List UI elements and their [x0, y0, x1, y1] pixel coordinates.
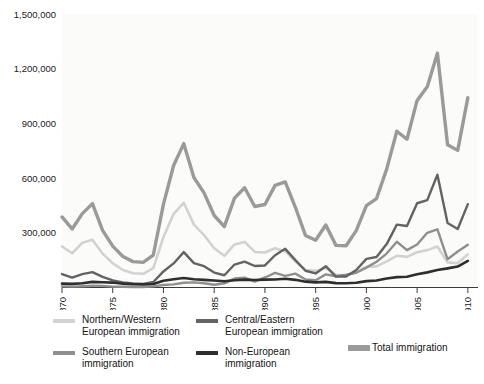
y-axis-tick-labels: 1,500,0001,200,000900,000600,000300,000	[14, 9, 56, 239]
legend-label-northern-western: Northern/Western European immigration	[82, 314, 180, 337]
chart-plot-area: 1,500,0001,200,000900,000600,000300,000 …	[0, 0, 484, 310]
y-tick-label: 1,200,000	[14, 63, 56, 74]
legend-label-southern: Southern European immigration	[82, 346, 169, 369]
legend-item-northern-western: Northern/Western European immigration	[53, 314, 198, 337]
legend-item-total: Total immigration	[348, 342, 484, 354]
y-tick-label: 600,000	[22, 173, 56, 184]
immigration-line-chart: 1,500,0001,200,000900,000600,000300,000 …	[0, 0, 484, 384]
legend-swatch-northern-western-icon	[53, 319, 75, 323]
legend-swatch-non-european-icon	[196, 351, 218, 355]
legend-item-southern: Southern European immigration	[53, 346, 198, 369]
y-tick-label: 1,500,000	[14, 9, 56, 20]
legend-label-non-european: Non-European immigration	[225, 346, 290, 369]
y-tick-label: 300,000	[22, 227, 56, 238]
legend-column-2: Central/Eastern European immigration Non…	[196, 314, 346, 378]
legend-label-total: Total immigration	[372, 342, 448, 354]
legend-swatch-southern-icon	[53, 351, 75, 355]
legend-column-3: Total immigration	[348, 342, 484, 363]
y-tick-label: 900,000	[22, 118, 56, 129]
legend-column-1: Northern/Western European immigration So…	[53, 314, 198, 378]
legend-label-central-eastern: Central/Eastern European immigration	[225, 314, 323, 337]
chart-legend: Northern/Western European immigration So…	[0, 306, 484, 384]
legend-swatch-total-icon	[348, 345, 370, 351]
legend-item-central-eastern: Central/Eastern European immigration	[196, 314, 346, 337]
legend-item-non-european: Non-European immigration	[196, 346, 346, 369]
legend-swatch-central-eastern-icon	[196, 319, 218, 323]
